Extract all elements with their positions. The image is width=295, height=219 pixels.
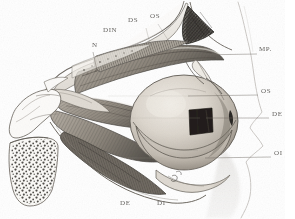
label-os-top: OS: [150, 12, 160, 20]
cornea-window: [189, 108, 213, 135]
label-de-bottom: DE: [120, 199, 131, 207]
label-di-bottom: DI: [157, 199, 166, 207]
label-n: N: [92, 41, 98, 49]
label-oi: OI: [274, 149, 283, 157]
label-de-right: DE: [272, 110, 283, 118]
label-ds: DS: [128, 16, 138, 24]
anatomical-plate: N DIN DS OS MP. OS DE OI DE DI: [0, 0, 295, 219]
engraving-canvas: [0, 0, 295, 219]
label-din: DIN: [103, 26, 117, 34]
label-mp: MP.: [259, 45, 272, 53]
label-os-right: OS: [261, 87, 271, 95]
